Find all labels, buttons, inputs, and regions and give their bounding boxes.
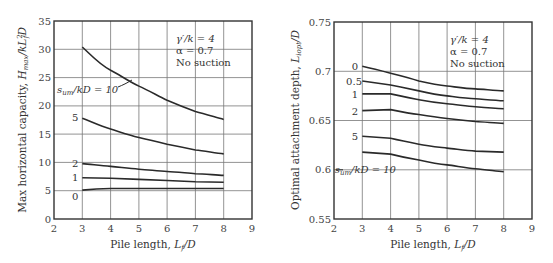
- left-curve-s2: [82, 164, 223, 176]
- right-chart: 0.75 0.7 0.65 0.6 0.55 2 3 4 5 6 7 8 9 P…: [289, 17, 535, 253]
- svg-text:No suction: No suction: [450, 58, 505, 69]
- svg-text:No suction: No suction: [176, 57, 231, 68]
- svg-text:9: 9: [249, 223, 255, 234]
- svg-text:2: 2: [51, 223, 57, 234]
- right-curve-s0: [362, 66, 503, 91]
- svg-text:5: 5: [416, 223, 422, 234]
- svg-text:1: 1: [352, 89, 358, 100]
- svg-text:8: 8: [501, 223, 507, 234]
- right-curve-labels: 0 0.5 1 2 5 sum/kD = 10: [335, 61, 397, 177]
- svg-text:5: 5: [352, 131, 358, 142]
- left-y-axis-label: Max horizontal capacity, Hmax/kL2fD: [16, 27, 30, 213]
- svg-text:6: 6: [444, 223, 450, 234]
- svg-text:0.75: 0.75: [309, 17, 331, 28]
- right-curve-s2: [362, 110, 503, 124]
- right-y-ticks: 0.75 0.7 0.65 0.6 0.55: [309, 17, 331, 225]
- left-y-ticks: 35 30 25 20 15 10 5 0: [38, 16, 51, 225]
- svg-text:6: 6: [164, 223, 170, 234]
- right-x-axis-label: Pile length, Lf/D: [390, 238, 476, 252]
- svg-text:1: 1: [72, 172, 78, 183]
- right-annotation: γ′/k = 4 α = 0.7 No suction: [450, 34, 505, 69]
- right-grid: [334, 22, 532, 219]
- svg-text:γ′/k = 4: γ′/k = 4: [450, 34, 489, 45]
- svg-text:2: 2: [331, 223, 337, 234]
- right-curve-s5: [362, 136, 503, 152]
- svg-text:7: 7: [472, 223, 478, 234]
- svg-text:7: 7: [192, 223, 198, 234]
- svg-text:3: 3: [79, 223, 85, 234]
- left-chart: 35 30 25 20 15 10 5 0 2 3 4 5 6 7 8 9 Pi…: [16, 16, 255, 253]
- svg-text:5: 5: [72, 112, 78, 123]
- left-x-axis-label: Pile length, Lf/D: [110, 238, 196, 252]
- svg-text:sum/kD = 10: sum/kD = 10: [335, 164, 397, 177]
- svg-text:4: 4: [107, 223, 113, 234]
- svg-text:sum/kD = 10: sum/kD = 10: [57, 84, 119, 97]
- svg-text:0.65: 0.65: [309, 115, 331, 126]
- left-curve-s0: [82, 189, 223, 191]
- svg-text:20: 20: [38, 100, 51, 111]
- svg-text:2: 2: [352, 106, 358, 117]
- svg-text:10: 10: [38, 157, 51, 168]
- figure: 35 30 25 20 15 10 5 0 2 3 4 5 6 7 8 9 Pi…: [0, 0, 553, 263]
- svg-text:30: 30: [38, 44, 51, 55]
- svg-text:α = 0.7: α = 0.7: [450, 46, 487, 57]
- left-curve-s5: [82, 118, 223, 154]
- svg-text:α = 0.7: α = 0.7: [176, 45, 213, 56]
- svg-text:3: 3: [359, 223, 365, 234]
- svg-text:4: 4: [387, 223, 393, 234]
- svg-text:25: 25: [38, 72, 51, 83]
- left-curve-labels: sum/kD = 10 5 2 1 0: [57, 84, 119, 202]
- left-leader-line: [118, 80, 132, 87]
- svg-text:0.55: 0.55: [309, 214, 331, 225]
- svg-text:35: 35: [38, 16, 51, 27]
- left-annotation: γ′/k = 4 α = 0.7 No suction: [176, 33, 231, 68]
- svg-text:0: 0: [352, 61, 358, 72]
- svg-text:0.6: 0.6: [315, 164, 331, 175]
- right-x-ticks: 2 3 4 5 6 7 8 9: [331, 223, 535, 234]
- svg-text:5: 5: [136, 223, 142, 234]
- svg-text:2: 2: [72, 158, 78, 169]
- left-x-ticks: 2 3 4 5 6 7 8 9: [51, 223, 255, 234]
- svg-text:9: 9: [529, 223, 535, 234]
- right-y-axis-label: Optimal attachment depth, Liopt/D: [289, 29, 303, 210]
- svg-text:15: 15: [38, 129, 51, 140]
- svg-text:γ′/k = 4: γ′/k = 4: [176, 33, 215, 44]
- svg-text:0.5: 0.5: [346, 76, 362, 87]
- svg-text:0.7: 0.7: [315, 66, 331, 77]
- svg-text:5: 5: [45, 185, 51, 196]
- left-curves: [82, 47, 223, 190]
- right-curve-s1: [362, 94, 503, 109]
- left-curve-s1: [82, 178, 223, 183]
- svg-text:0: 0: [72, 191, 78, 202]
- svg-text:8: 8: [221, 223, 227, 234]
